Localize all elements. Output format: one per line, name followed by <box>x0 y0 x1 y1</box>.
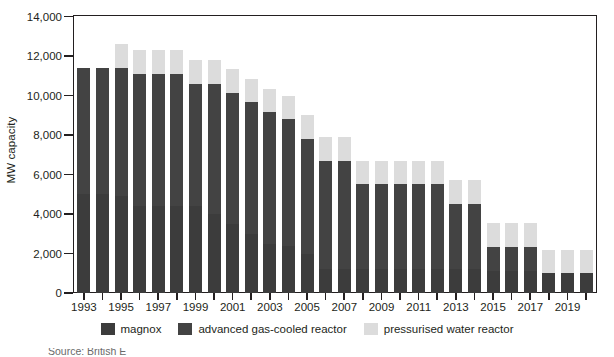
bars-layer <box>75 17 596 293</box>
bar-segment-pwr <box>301 115 314 139</box>
x-axis-tick-mark <box>120 293 122 300</box>
legend-item[interactable]: magnox <box>101 323 162 336</box>
bar-group[interactable] <box>301 115 314 293</box>
legend-item[interactable]: pressurised water reactor <box>364 323 514 336</box>
y-axis-tick: 4,000 <box>0 207 73 221</box>
source-note-text: Source: British E <box>48 348 348 357</box>
bar-group[interactable] <box>505 223 518 293</box>
y-axis-tick-label: 6,000 <box>33 168 62 182</box>
bar-segment-agr <box>431 184 444 269</box>
bar-segment-agr <box>375 184 388 269</box>
bar-segment-agr <box>338 161 351 270</box>
x-axis-tick-mark <box>399 293 401 300</box>
x-axis-tick-label: 2007 <box>332 300 358 315</box>
bar-group[interactable] <box>77 68 90 293</box>
bar-group[interactable] <box>524 223 537 293</box>
bar-segment-agr <box>524 247 537 272</box>
bar-segment-agr <box>152 74 165 206</box>
bar-group[interactable] <box>133 50 146 293</box>
y-axis-tick-mark <box>64 174 73 176</box>
bar-group[interactable] <box>412 161 425 293</box>
chart-legend: magnoxadvanced gas-cooled reactorpressur… <box>0 320 614 338</box>
bar-group[interactable] <box>189 60 202 293</box>
bar-group[interactable] <box>356 161 369 293</box>
bar-segment-magnox <box>431 269 444 293</box>
x-axis-tick-label: 2005 <box>294 300 320 315</box>
nuclear-capacity-chart: MW capacity 14,00012,00010,0008,0006,000… <box>0 0 614 357</box>
y-axis-tick: 14,000 <box>0 10 73 24</box>
bar-group[interactable] <box>282 96 295 293</box>
bar-segment-agr <box>226 93 239 224</box>
x-axis-tick-label: 2013 <box>443 300 469 315</box>
x-axis-tick-mark <box>381 293 383 300</box>
bar-group[interactable] <box>468 180 481 293</box>
x-axis-tick-label: 1993 <box>71 300 97 315</box>
bar-segment-magnox <box>356 269 369 293</box>
bar-segment-pwr <box>152 50 165 74</box>
bar-segment-pwr <box>133 50 146 74</box>
bar-segment-agr <box>189 84 202 206</box>
bar-group[interactable] <box>263 89 276 293</box>
x-axis-tick-mark <box>455 293 457 300</box>
x-axis-tick-mark <box>529 293 531 300</box>
x-axis-tick-mark <box>176 293 178 300</box>
bar-group[interactable] <box>449 180 462 293</box>
bar-group[interactable] <box>338 137 351 293</box>
bar-group[interactable] <box>245 79 258 293</box>
bar-segment-pwr <box>282 96 295 120</box>
bar-group[interactable] <box>96 68 109 293</box>
bar-segment-pwr <box>449 180 462 204</box>
bar-group[interactable] <box>431 161 444 293</box>
bar-segment-pwr <box>580 250 593 274</box>
legend-item-label: magnox <box>121 323 162 336</box>
x-axis-tick-mark <box>511 293 513 300</box>
bar-segment-pwr <box>319 137 332 161</box>
source-note: Source: British E <box>48 348 348 357</box>
bar-segment-magnox <box>263 244 276 293</box>
bar-segment-magnox <box>301 254 314 293</box>
y-axis-tick-mark <box>64 213 73 215</box>
y-axis-tick: 2,000 <box>0 247 73 261</box>
bar-group[interactable] <box>487 223 500 293</box>
x-axis-tick-mark <box>343 293 345 300</box>
y-axis-tick: 0 <box>0 286 73 300</box>
x-axis-tick-mark <box>306 293 308 300</box>
bar-segment-pwr <box>561 250 574 274</box>
bar-group[interactable] <box>226 69 239 293</box>
bar-segment-agr <box>394 184 407 269</box>
bar-group[interactable] <box>208 60 221 293</box>
x-axis-tick-mark <box>436 293 438 300</box>
bar-group[interactable] <box>542 250 555 293</box>
x-axis-tick-mark <box>492 293 494 300</box>
y-axis-tick: 10,000 <box>0 89 73 103</box>
y-axis-tick-label: 0 <box>56 286 62 300</box>
bar-segment-magnox <box>189 206 202 293</box>
bar-segment-agr <box>263 112 276 243</box>
bar-segment-magnox <box>77 194 90 293</box>
x-axis-tick-mark <box>195 293 197 300</box>
x-axis-tick-mark <box>418 293 420 300</box>
bar-segment-agr <box>412 184 425 269</box>
legend-swatch-magnox <box>101 323 115 335</box>
bar-group[interactable] <box>561 250 574 293</box>
legend-item[interactable]: advanced gas-cooled reactor <box>178 323 346 336</box>
bar-group[interactable] <box>170 50 183 293</box>
bar-group[interactable] <box>394 161 407 293</box>
bar-group[interactable] <box>152 50 165 293</box>
bar-group[interactable] <box>375 161 388 293</box>
x-axis-tick-mark <box>567 293 569 300</box>
y-axis-tick-mark <box>64 134 73 136</box>
x-axis-tick-mark <box>232 293 234 300</box>
bar-segment-pwr <box>394 161 407 185</box>
bar-group[interactable] <box>319 137 332 293</box>
bar-segment-pwr <box>412 161 425 185</box>
bar-segment-agr <box>115 68 128 196</box>
y-axis-tick-mark <box>64 55 73 57</box>
bar-group[interactable] <box>115 44 128 293</box>
bar-group[interactable] <box>580 250 593 293</box>
y-axis-tick-label: 2,000 <box>33 247 62 261</box>
bar-segment-agr <box>245 102 258 233</box>
y-axis-tick-label: 14,000 <box>27 10 62 24</box>
bar-segment-pwr <box>170 50 183 74</box>
x-axis-tick-mark <box>288 293 290 300</box>
